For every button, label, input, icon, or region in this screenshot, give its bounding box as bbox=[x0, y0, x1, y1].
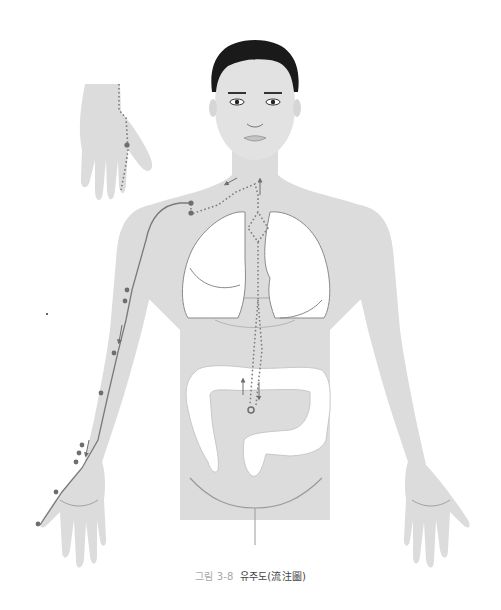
figure-title: 유주도(流注圖) bbox=[240, 571, 306, 582]
inset-hand bbox=[80, 84, 152, 200]
meridian-diagram bbox=[0, 0, 501, 610]
figure-caption: 그림 3-8유주도(流注圖) bbox=[0, 568, 501, 583]
figure-number: 그림 3-8 bbox=[195, 571, 234, 582]
stray-dot bbox=[46, 313, 48, 315]
body-silhouette bbox=[40, 150, 469, 568]
head bbox=[209, 40, 301, 160]
hand-inset-point bbox=[124, 142, 129, 147]
